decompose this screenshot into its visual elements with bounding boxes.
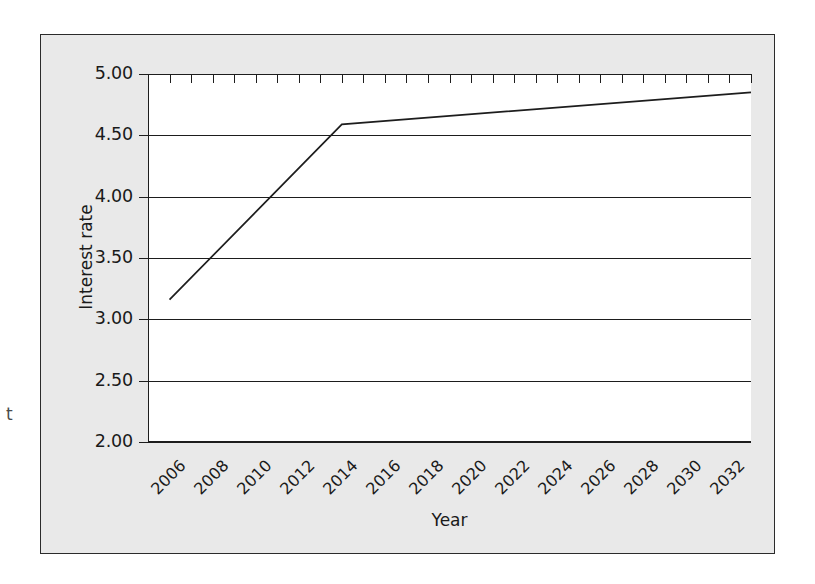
y-axis-tick-label: 5.00	[95, 63, 133, 83]
y-axis-tick-label: 2.00	[95, 431, 133, 451]
y-axis-tick	[139, 442, 148, 443]
x-axis-tick-label: 2028	[621, 456, 663, 498]
y-axis-tick	[139, 135, 148, 136]
x-axis-title: Year	[300, 510, 600, 530]
y-axis-tick	[139, 74, 148, 75]
figure-frame: 5.004.504.003.503.002.502.00 20062008201…	[40, 34, 775, 554]
y-axis-tick-label: 2.50	[95, 370, 133, 390]
x-axis-tick	[751, 74, 752, 83]
y-axis-tick	[139, 258, 148, 259]
data-series-layer	[148, 74, 751, 442]
x-axis-tick-label: 2024	[534, 456, 576, 498]
x-axis-tick-label: 2012	[276, 456, 318, 498]
gridline	[148, 442, 751, 443]
x-axis-tick-label: 2014	[319, 456, 361, 498]
x-axis-tick-label: 2016	[362, 456, 404, 498]
x-axis-tick-label: 2022	[491, 456, 533, 498]
y-axis-tick-label: 3.50	[95, 247, 133, 267]
y-axis-tick	[139, 319, 148, 320]
y-axis-tick-label: 4.00	[95, 186, 133, 206]
y-axis-tick	[139, 381, 148, 382]
plot-area	[148, 74, 751, 442]
x-axis-tick-label: 2032	[707, 456, 749, 498]
x-axis-tick-label: 2010	[233, 456, 275, 498]
y-axis-tick-label: 4.50	[95, 124, 133, 144]
x-axis-tick-label: 2018	[405, 456, 447, 498]
x-axis-tick-label: 2008	[190, 456, 232, 498]
y-axis-title: Interest rate	[76, 73, 96, 441]
x-axis-tick-label: 2020	[448, 456, 490, 498]
series-line	[170, 92, 751, 299]
x-axis-tick-label: 2030	[664, 456, 706, 498]
y-axis-tick-label: 3.00	[95, 308, 133, 328]
y-axis-tick	[139, 197, 148, 198]
x-axis-tick-label: 2006	[147, 456, 189, 498]
margin-stray-glyph: t	[6, 404, 13, 424]
x-axis-tick-label: 2026	[577, 456, 619, 498]
